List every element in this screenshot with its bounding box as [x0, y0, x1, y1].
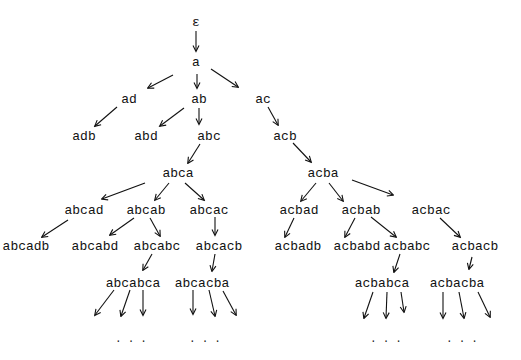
arrow-edge: [440, 218, 460, 237]
ellipsis-marker: ...: [115, 333, 153, 345]
tree-node-abcabca: abcabca: [106, 277, 161, 290]
tree-node-abcabc: abcabc: [134, 240, 181, 253]
tree-node-ab: ab: [191, 93, 207, 106]
ellipsis-marker: ...: [370, 333, 408, 345]
arrow-edge: [293, 143, 311, 162]
arrow-edge: [352, 180, 393, 195]
tree-node-abcadb: abcadb: [3, 240, 50, 253]
arrow-edge: [95, 107, 117, 126]
tree-node-acbabca: acbabca: [355, 277, 410, 290]
tree-node-ac: ac: [255, 93, 271, 106]
arrow-edge: [102, 183, 145, 199]
tree-node-acbadb: acbadb: [275, 240, 322, 253]
tree-node-acbabd: acbabd: [334, 240, 381, 253]
tree-node-acb: acb: [273, 130, 296, 143]
arrow-edge: [148, 75, 173, 88]
tree-node-adb: adb: [72, 130, 95, 143]
arrow-edge: [212, 254, 215, 271]
arrow-edge: [150, 218, 160, 236]
arrow-edge: [268, 107, 278, 125]
tree-node-acbab: acbab: [341, 204, 380, 217]
tree-node-ad: ad: [121, 93, 137, 106]
ellipsis-marker: ...: [189, 333, 227, 345]
arrow-edge: [285, 218, 294, 237]
arrow-edge: [371, 217, 396, 237]
tree-node-acba: acba: [307, 167, 338, 180]
arrow-edge: [469, 257, 472, 269]
tree-diagram: [0, 0, 521, 360]
tree-node-acbac: acbac: [411, 204, 450, 217]
arrow-edge: [143, 254, 152, 270]
tree-node-acbad: acbad: [279, 204, 318, 217]
arrow-edge: [121, 290, 130, 316]
ellipsis-marker: ...: [446, 333, 484, 345]
tree-node-abcacba: abcacba: [175, 277, 230, 290]
tree-node-a: a: [192, 56, 200, 69]
arrow-edge: [188, 144, 200, 163]
arrow-edge: [345, 218, 355, 237]
tree-node-abd: abd: [134, 130, 157, 143]
arrow-edge: [329, 183, 343, 201]
arrow-edge: [160, 108, 184, 126]
arrow-edge: [209, 290, 215, 316]
arrow-edge: [223, 291, 236, 315]
arrow-edge: [301, 183, 316, 201]
tree-node-acbacba: acbacba: [430, 277, 485, 290]
arrow-edge: [211, 69, 238, 87]
tree-node-abcabd: abcabd: [72, 240, 119, 253]
arrow-edge: [386, 292, 387, 318]
tree-node-abcacb: abcacb: [196, 240, 243, 253]
arrow-edge: [95, 290, 114, 315]
tree-node-abc: abc: [197, 130, 220, 143]
tree-node-acbacb: acbacb: [452, 240, 499, 253]
tree-node-acbabc: acbabc: [384, 240, 431, 253]
tree-node-abca: abca: [162, 167, 193, 180]
tree-node-abcac: abcac: [189, 204, 228, 217]
tree-node-abcab: abcab: [126, 204, 165, 217]
arrow-edge: [364, 292, 373, 318]
arrow-edge: [185, 183, 204, 200]
arrow-edge: [42, 220, 68, 237]
tree-node-eps: ε: [192, 16, 200, 29]
arrow-edge: [401, 292, 404, 312]
arrow-edge: [155, 183, 169, 200]
tree-node-abcad: abcad: [64, 204, 103, 217]
arrow-edge: [459, 292, 464, 318]
arrow-edge: [478, 292, 490, 317]
arrow-edge: [394, 254, 400, 272]
arrow-edge: [110, 218, 134, 235]
